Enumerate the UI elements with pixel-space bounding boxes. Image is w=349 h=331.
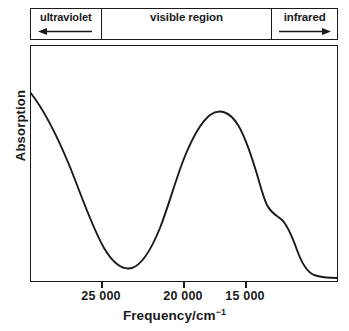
xtick-mark-15000 — [245, 282, 247, 288]
xtick-label-25000: 25 000 — [81, 289, 120, 303]
x-axis-title: Frequency/cm−1 — [0, 308, 349, 323]
region-cell-ultraviolet: ultraviolet — [31, 9, 101, 39]
absorption-curve — [30, 45, 338, 282]
x-axis-title-superscript: −1 — [216, 307, 226, 317]
region-label-ultraviolet: ultraviolet — [40, 10, 91, 24]
xtick-label-20000: 20 000 — [163, 289, 202, 303]
x-axis-title-text: Frequency/cm — [123, 308, 216, 323]
region-label-infrared: infrared — [284, 10, 326, 24]
region-cell-infrared: infrared — [271, 9, 337, 39]
spectral-region-band: ultraviolet visible region infrared — [30, 8, 338, 40]
xtick-mark-20000 — [183, 282, 185, 288]
left-arrow-icon — [31, 27, 101, 36]
region-label-visible: visible region — [150, 10, 223, 24]
absorption-spectrum-figure: ultraviolet visible region infrared — [0, 0, 349, 331]
region-cell-visible: visible region — [101, 9, 272, 39]
xtick-mark-25000 — [101, 282, 103, 288]
y-axis-title: Absorption — [13, 71, 28, 181]
right-arrow-icon — [272, 27, 337, 36]
xtick-label-15000: 15 000 — [225, 289, 264, 303]
